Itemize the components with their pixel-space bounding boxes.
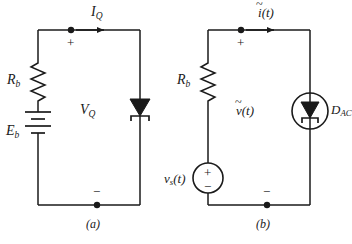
circuit-b-node-dot-top — [238, 27, 244, 33]
circuit-b-node-dot-bottom — [264, 202, 270, 208]
circuit-b-diode-symbol — [292, 93, 328, 129]
circuit-a-resistor-label: Rb — [7, 73, 20, 89]
circuit-b-source-label: vs(t) — [164, 172, 186, 187]
circuit-a-minus-sign: − — [93, 185, 100, 198]
circuit-a-battery-symbol — [25, 112, 51, 133]
circuit-a-source-label: Eb — [6, 124, 19, 140]
circuit-a-voltage-label: VQ — [80, 103, 95, 119]
circuit-a-resistor-symbol — [31, 59, 45, 106]
circuit-a-node-dot-top — [68, 27, 74, 33]
circuit-b-voltage-label: ~v(t) — [236, 104, 254, 117]
circuit-a-plus-sign: + — [67, 36, 74, 49]
circuit-b-resistor-symbol — [201, 59, 215, 106]
circuit-b-diode-label: DAC — [331, 103, 352, 118]
circuit-a-caption: (a) — [86, 217, 100, 232]
circuit-b-minus-sign: − — [263, 185, 270, 198]
circuit-b-current-label: ~i(t) — [258, 6, 274, 19]
circuit-a-node-dot-bottom — [94, 202, 100, 208]
circuit-b-source-minus-sign: − — [204, 180, 211, 193]
circuit-b-group — [193, 27, 328, 208]
circuit-a-current-label: IQ — [91, 5, 103, 21]
circuit-b-resistor-label: Rb — [177, 73, 190, 89]
circuit-b-source-plus-sign: + — [204, 166, 211, 179]
circuit-b-plus-sign: + — [237, 36, 244, 49]
circuit-b-caption: (b) — [256, 217, 270, 232]
